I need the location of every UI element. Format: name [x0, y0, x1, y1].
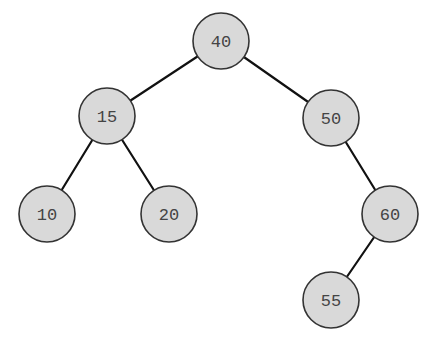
tree-node-40: 40 — [193, 13, 249, 69]
tree-node-15: 15 — [79, 88, 135, 144]
binary-tree-diagram: 40 15 50 10 20 60 55 — [0, 0, 441, 345]
tree-node-20: 20 — [141, 186, 197, 242]
node-label: 55 — [321, 292, 341, 311]
tree-node-60: 60 — [362, 186, 418, 242]
tree-node-50: 50 — [303, 90, 359, 146]
tree-node-10: 10 — [19, 186, 75, 242]
tree-node-55: 55 — [303, 272, 359, 328]
node-label: 60 — [380, 206, 400, 225]
node-label: 40 — [211, 33, 231, 52]
node-label: 20 — [159, 206, 179, 225]
node-label: 15 — [97, 108, 117, 127]
nodes-group: 40 15 50 10 20 60 55 — [19, 13, 418, 328]
node-label: 50 — [321, 110, 341, 129]
edges-group — [47, 41, 390, 300]
node-label: 10 — [37, 206, 57, 225]
